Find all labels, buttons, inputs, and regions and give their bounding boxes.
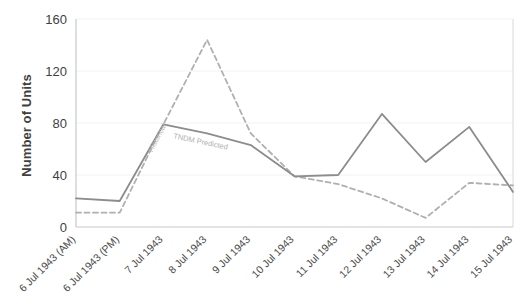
- x-tick-label: 8 Jul 1943: [166, 233, 209, 276]
- y-axis-title: Number of Units: [19, 61, 34, 191]
- line-chart-plot: 04080120160 6 Jul 1943 (AM)6 Jul 1943 (P…: [0, 0, 525, 306]
- series-label-historical: Historical: [146, 122, 168, 154]
- series-line-historical: [76, 40, 513, 218]
- series-lines-group: [76, 40, 513, 218]
- x-tick-labels-group: 6 Jul 1943 (AM)6 Jul 1943 (PM)7 Jul 1943…: [17, 233, 515, 294]
- y-tick-label: 120: [45, 64, 67, 79]
- x-tick-label: 12 Jul 1943: [336, 233, 383, 280]
- y-tick-label: 80: [53, 116, 67, 131]
- series-inline-labels-group: HistoricalTNDM Predicted: [146, 122, 229, 154]
- y-tick-labels-group: 04080120160: [45, 12, 67, 235]
- gridlines-group: [76, 19, 513, 175]
- x-tick-label: 13 Jul 1943: [380, 233, 427, 280]
- x-tick-label: 15 Jul 1943: [468, 233, 515, 280]
- x-tick-label: 7 Jul 1943: [122, 233, 165, 276]
- chart-container: Number of Units 04080120160 6 Jul 1943 (…: [0, 0, 525, 306]
- x-tick-label: 10 Jul 1943: [249, 233, 296, 280]
- y-tick-label: 160: [45, 12, 67, 27]
- series-line-tndm-predicted: [76, 114, 513, 201]
- y-tick-label: 0: [60, 220, 67, 235]
- x-tick-label: 14 Jul 1943: [424, 233, 471, 280]
- series-label-tndm-predicted: TNDM Predicted: [173, 131, 229, 151]
- x-tick-label: 11 Jul 1943: [293, 233, 339, 279]
- x-tick-label: 9 Jul 1943: [209, 233, 252, 276]
- y-tick-label: 40: [53, 168, 67, 183]
